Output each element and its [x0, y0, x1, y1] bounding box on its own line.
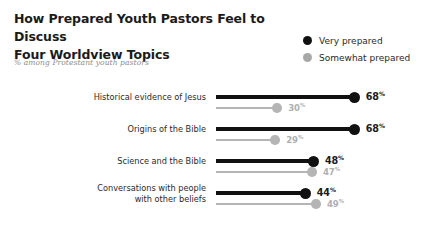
percent-symbol: %	[379, 122, 385, 129]
row-category-label: Conversations with people with other bel…	[36, 183, 206, 204]
bar-line	[216, 191, 306, 194]
chart-container: How Prepared Youth Pastors Feel to Discu…	[0, 0, 442, 245]
bar-line	[216, 127, 355, 130]
bar-line	[216, 95, 355, 98]
percent-symbol: %	[330, 186, 336, 193]
legend-label-very-prepared: Very prepared	[319, 35, 383, 47]
bar-line	[216, 203, 316, 206]
bar-value-label: 68%	[366, 90, 385, 102]
chart-row: Origins of the Bible68%29%	[0, 120, 442, 152]
bar-endpoint-dot	[349, 124, 360, 135]
chart-title-line-1: How Prepared Youth Pastors Feel to Discu…	[14, 10, 304, 46]
bar-line	[216, 159, 314, 162]
legend-item-somewhat-prepared: Somewhat prepared	[303, 50, 410, 65]
row-bars: 68%29%	[216, 120, 442, 152]
legend-dot-gray-icon	[303, 53, 312, 62]
percent-symbol: %	[338, 154, 344, 161]
bar-endpoint-dot	[300, 188, 311, 199]
bar-value-label: 29%	[286, 134, 303, 145]
percent-symbol: %	[298, 134, 303, 140]
bar-value-label: 68%	[366, 122, 385, 134]
chart-row: Historical evidence of Jesus68%30%	[0, 88, 442, 120]
bar-value-label: 44%	[317, 186, 336, 198]
row-bars: 68%30%	[216, 88, 442, 120]
row-bars: 48%47%	[216, 152, 442, 184]
row-category-label: Historical evidence of Jesus	[36, 92, 206, 103]
bar-line	[216, 139, 275, 142]
bar-endpoint-dot	[272, 103, 282, 113]
row-bars: 44%49%	[216, 184, 442, 216]
percent-symbol: %	[379, 90, 385, 97]
bar-endpoint-dot	[349, 92, 360, 103]
bar-value-label: 30%	[288, 102, 305, 113]
bar-endpoint-dot	[311, 199, 321, 209]
row-category-label: Origins of the Bible	[36, 124, 206, 135]
chart-row: Conversations with people with other bel…	[0, 184, 442, 216]
legend-item-very-prepared: Very prepared	[303, 33, 410, 48]
bar-endpoint-dot	[307, 167, 317, 177]
chart-subtitle: % among Protestant youth pastors	[14, 58, 149, 68]
bar-line	[216, 107, 277, 110]
percent-symbol: %	[335, 166, 340, 172]
bar-endpoint-dot	[308, 156, 319, 167]
bar-endpoint-dot	[270, 135, 280, 145]
bar-value-label: 47%	[323, 166, 340, 177]
row-category-label: Science and the Bible	[36, 156, 206, 167]
percent-symbol: %	[300, 102, 305, 108]
chart-rows: Historical evidence of Jesus68%30%Origin…	[0, 88, 442, 216]
bar-value-label: 48%	[325, 154, 344, 166]
chart-title: How Prepared Youth Pastors Feel to Discu…	[14, 10, 304, 64]
bar-value-label: 49%	[327, 198, 344, 209]
bar-line	[216, 171, 312, 174]
legend-label-somewhat-prepared: Somewhat prepared	[319, 52, 410, 64]
legend-dot-black-icon	[303, 36, 312, 45]
percent-symbol: %	[339, 198, 344, 204]
chart-row: Science and the Bible48%47%	[0, 152, 442, 184]
chart-legend: Very prepared Somewhat prepared	[303, 33, 410, 67]
